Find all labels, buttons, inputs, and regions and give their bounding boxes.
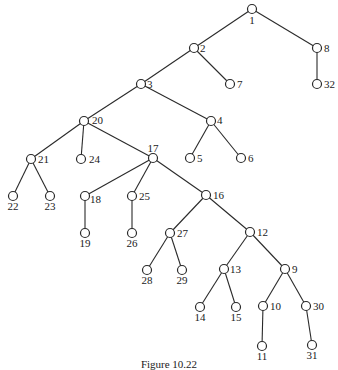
node-label-28: 28 — [142, 274, 154, 286]
node-8 — [313, 44, 322, 53]
node-30 — [302, 302, 311, 311]
node-9 — [281, 265, 290, 274]
tree-edges — [13, 9, 317, 346]
node-label-7: 7 — [237, 78, 243, 90]
node-label-4: 4 — [217, 114, 223, 126]
node-label-30: 30 — [313, 300, 325, 312]
edge-20-24 — [81, 121, 84, 159]
node-18 — [81, 192, 90, 201]
edge-27-28 — [147, 233, 170, 270]
node-2 — [190, 44, 199, 53]
node-label-8: 8 — [324, 42, 330, 54]
node-12 — [246, 228, 255, 237]
node-label-18: 18 — [90, 193, 102, 205]
node-label-1: 1 — [249, 14, 255, 26]
node-27 — [166, 229, 175, 238]
node-label-13: 13 — [230, 263, 242, 275]
edge-10-11 — [262, 306, 263, 346]
node-label-26: 26 — [127, 237, 139, 249]
node-3 — [137, 80, 146, 89]
node-label-27: 27 — [177, 227, 189, 239]
node-label-16: 16 — [213, 189, 225, 201]
node-25 — [128, 192, 137, 201]
node-5 — [186, 154, 195, 163]
node-label-12: 12 — [257, 226, 268, 238]
node-32 — [313, 80, 322, 89]
node-6 — [237, 154, 246, 163]
node-label-23: 23 — [45, 200, 57, 212]
node-label-22: 22 — [8, 200, 19, 212]
node-label-9: 9 — [292, 263, 298, 275]
node-label-2: 2 — [200, 42, 206, 54]
node-4 — [207, 117, 216, 126]
node-16 — [202, 191, 211, 200]
node-label-29: 29 — [177, 274, 189, 286]
node-13 — [220, 265, 229, 274]
node-label-19: 19 — [80, 237, 92, 249]
node-labels: 1283732204212417562223182516192627122829… — [8, 14, 336, 362]
node-label-10: 10 — [270, 300, 282, 312]
tree-nodes — [9, 5, 322, 351]
node-24 — [77, 155, 86, 164]
node-17 — [149, 154, 158, 163]
node-21 — [27, 155, 36, 164]
edge-21-22 — [13, 159, 31, 196]
edge-1-8 — [252, 9, 317, 48]
node-label-17: 17 — [148, 142, 160, 154]
node-7 — [226, 80, 235, 89]
node-label-5: 5 — [197, 152, 203, 164]
node-label-21: 21 — [38, 153, 49, 165]
node-10 — [259, 302, 268, 311]
edge-16-27 — [170, 195, 206, 233]
node-1 — [248, 5, 257, 14]
node-label-3: 3 — [147, 78, 153, 90]
node-20 — [80, 117, 89, 126]
node-label-24: 24 — [89, 153, 101, 165]
node-label-20: 20 — [92, 114, 104, 126]
node-label-32: 32 — [324, 78, 335, 90]
figure-caption: Figure 10.22 — [0, 358, 338, 370]
edge-4-6 — [211, 121, 241, 158]
node-label-15: 15 — [231, 311, 243, 323]
node-label-14: 14 — [195, 311, 207, 323]
node-label-6: 6 — [248, 152, 254, 164]
node-label-25: 25 — [139, 190, 151, 202]
edge-30-31 — [306, 306, 312, 345]
edge-13-14 — [200, 269, 224, 307]
